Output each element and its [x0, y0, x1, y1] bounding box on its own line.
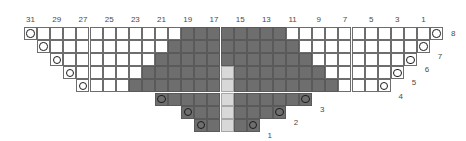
chart-cell [247, 93, 260, 106]
chart-cell [129, 40, 142, 53]
chart-cell [234, 79, 247, 92]
chart-cell [155, 40, 168, 53]
chart-cell [207, 79, 220, 92]
chart-cell [129, 53, 142, 66]
chart-cell [352, 66, 365, 79]
chart-cell [90, 79, 103, 92]
chart-cell [181, 79, 194, 92]
chart-cell [194, 27, 207, 40]
chart-cell [50, 53, 63, 66]
chart-cell [430, 27, 443, 40]
chart-cell [194, 119, 207, 132]
chart-cell [142, 53, 155, 66]
column-header-9: 9 [312, 15, 326, 25]
chart-cell [260, 93, 273, 106]
chart-cell [234, 66, 247, 79]
chart-cell [116, 79, 129, 92]
chart-cell [325, 40, 338, 53]
chart-cell [299, 93, 312, 106]
chart-cell [90, 53, 103, 66]
chart-cell [63, 53, 76, 66]
chart-cell [247, 40, 260, 53]
row-label-1: 1 [263, 131, 277, 141]
chart-cell [207, 119, 220, 132]
chart-cell [325, 66, 338, 79]
chart-cell [286, 66, 299, 79]
column-header-19: 19 [181, 15, 195, 25]
chart-cell [260, 40, 273, 53]
chart-cell [247, 79, 260, 92]
chart-cell [168, 53, 181, 66]
chart-cell [338, 40, 351, 53]
chart-cell [312, 40, 325, 53]
chart-cell [181, 40, 194, 53]
chart-cell [142, 40, 155, 53]
chart-cell [221, 66, 234, 79]
chart-cell [194, 79, 207, 92]
chart-cell [404, 53, 417, 66]
chart-cell [76, 53, 89, 66]
chart-cell [391, 27, 404, 40]
chart-cell [90, 66, 103, 79]
chart-cell [286, 53, 299, 66]
column-header-15: 15 [233, 15, 247, 25]
chart-cell [181, 27, 194, 40]
chart-cell [378, 40, 391, 53]
chart-cell [273, 79, 286, 92]
chart-cell [168, 27, 181, 40]
chart-cell [155, 79, 168, 92]
column-header-11: 11 [286, 15, 300, 25]
chart-cell [273, 53, 286, 66]
chart-cell [352, 27, 365, 40]
chart-cell [194, 106, 207, 119]
chart-cell [207, 66, 220, 79]
chart-cell [194, 93, 207, 106]
chart-cell [207, 53, 220, 66]
row-label-5: 5 [407, 78, 421, 88]
chart-cell [299, 27, 312, 40]
chart-cell [260, 53, 273, 66]
chart-cell [76, 27, 89, 40]
chart-cell [221, 79, 234, 92]
chart-cell [365, 53, 378, 66]
chart-cell [391, 66, 404, 79]
chart-cell [221, 106, 234, 119]
row-label-3: 3 [315, 105, 329, 115]
chart-cell [103, 40, 116, 53]
chart-cell [234, 93, 247, 106]
chart-cell [391, 40, 404, 53]
chart-cell [116, 40, 129, 53]
column-header-27: 27 [76, 15, 90, 25]
chart-cell [142, 66, 155, 79]
chart-cell [338, 53, 351, 66]
chart-cell [417, 40, 430, 53]
chart-cell [273, 40, 286, 53]
chart-cell [312, 79, 325, 92]
chart-cell [90, 40, 103, 53]
chart-cell [365, 40, 378, 53]
chart-cell [63, 27, 76, 40]
chart-cell [378, 53, 391, 66]
chart-cell [365, 66, 378, 79]
chart-cell [247, 27, 260, 40]
chart-cell [116, 53, 129, 66]
chart-cell [273, 27, 286, 40]
chart-cell [378, 66, 391, 79]
chart-cell [299, 79, 312, 92]
chart-cell [155, 66, 168, 79]
chart-cell [103, 27, 116, 40]
chart-cell [247, 119, 260, 132]
chart-cell [37, 40, 50, 53]
chart-cell [37, 27, 50, 40]
chart-cell [325, 79, 338, 92]
chart-cell [194, 53, 207, 66]
chart-cell [207, 27, 220, 40]
chart-cell [312, 66, 325, 79]
chart-cell [221, 40, 234, 53]
chart-cell [338, 27, 351, 40]
chart-cell [221, 93, 234, 106]
chart-cell [181, 106, 194, 119]
chart-cell [325, 53, 338, 66]
chart-cell [76, 79, 89, 92]
chart-cell [234, 119, 247, 132]
